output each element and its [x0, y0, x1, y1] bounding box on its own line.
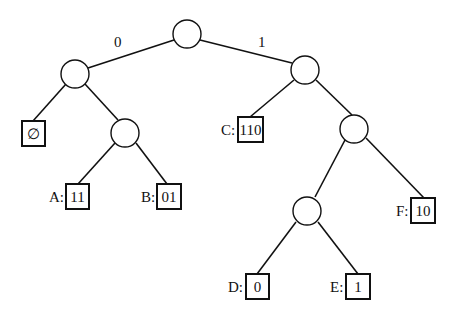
leaf-d-label: D:: [228, 279, 243, 295]
leaf-e-label: E:: [330, 279, 343, 295]
leaf-empty-code: ∅: [27, 126, 40, 142]
internal-node-right-right: [340, 115, 368, 143]
leaf-b-label: B:: [141, 189, 155, 205]
edge-rsub-f: [366, 138, 424, 198]
leaf-a-label: A:: [49, 189, 64, 205]
leaf-f-label: F:: [396, 203, 409, 219]
leaf-f-code: 10: [416, 203, 431, 219]
edge-right-sub: [316, 80, 352, 115]
leaf-c-label: C:: [221, 122, 235, 138]
tree-diagram: 0 1 ∅ A: 11 B: 01 C: 110 F: 10 D: 0 E: 1: [0, 0, 458, 319]
edge-sub-b: [136, 143, 167, 184]
edge-sub-a: [78, 143, 115, 184]
leaf-c-code: 110: [240, 122, 262, 138]
leaf-e-code: 1: [354, 279, 362, 295]
edge-de-d: [257, 222, 296, 274]
leaf-a-code: 11: [70, 189, 84, 205]
edge-left-empty: [33, 84, 66, 121]
internal-node-de: [293, 197, 321, 225]
leaf-b-code: 01: [162, 189, 177, 205]
edge-de-e: [318, 222, 358, 274]
internal-node-left-right: [111, 119, 139, 147]
leaf-d-code: 0: [254, 279, 262, 295]
edge-root-left: [88, 40, 174, 68]
root-node: [173, 20, 201, 48]
edge-left-sub: [85, 84, 118, 120]
edge-root-right: [200, 40, 292, 63]
edge-label-right: 1: [258, 34, 266, 50]
internal-node-left: [61, 60, 89, 88]
edge-rsub-de: [315, 140, 345, 197]
internal-node-right: [291, 56, 319, 84]
edge-right-c: [250, 80, 294, 117]
edge-label-left: 0: [114, 34, 122, 50]
